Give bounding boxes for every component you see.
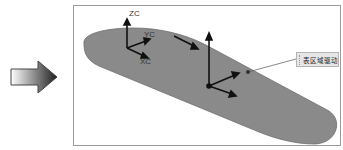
zc-label: ZC <box>129 10 140 18</box>
grip-icon <box>299 55 302 65</box>
graphics-viewport[interactable]: ZC YC XC 表区域驱动 <box>73 5 341 146</box>
yc-label: YC <box>144 31 155 39</box>
right-arrow-icon <box>10 60 58 94</box>
xc-label: XC <box>140 58 151 66</box>
callout-label: 表区域驱动 <box>303 55 338 65</box>
part-surface[interactable] <box>74 6 341 146</box>
drive-method-callout[interactable]: 表区域驱动 <box>296 52 339 67</box>
